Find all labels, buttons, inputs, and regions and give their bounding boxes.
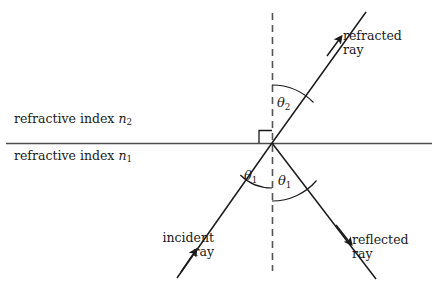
reflected-ray-label-line2: ray bbox=[352, 246, 373, 261]
refracted-ray-arrowhead-icon bbox=[327, 37, 341, 56]
incident-ray-label-line1: incident bbox=[162, 230, 214, 245]
refracted-ray-label: refractedray bbox=[343, 29, 402, 58]
reflected-ray-label-line1: reflected bbox=[352, 232, 409, 247]
upper-medium-text: refractive index bbox=[14, 111, 114, 126]
incident-ray-label-line2: ray bbox=[194, 244, 215, 259]
theta1-reflected-subscript: 1 bbox=[286, 180, 292, 190]
refracted-ray-label-line2: ray bbox=[343, 42, 364, 57]
lower-medium-refractive-index-label: refractive index n1 bbox=[14, 149, 132, 165]
right-angle-marker-icon bbox=[259, 131, 272, 144]
theta2-symbol: θ bbox=[277, 95, 285, 110]
theta1-incident-angle-label: θ1 bbox=[244, 168, 257, 185]
incident-ray-label: incidentray bbox=[136, 231, 214, 260]
refracted-ray-label-line1: refracted bbox=[343, 28, 402, 43]
reflected-ray-label: reflectedray bbox=[352, 233, 409, 262]
theta1-reflected-angle-label: θ1 bbox=[278, 173, 291, 190]
upper-medium-refractive-index-label: refractive index n2 bbox=[14, 112, 132, 128]
theta2-subscript: 2 bbox=[285, 102, 291, 112]
theta2-angle-label: θ2 bbox=[277, 95, 290, 112]
lower-medium-subscript: 1 bbox=[126, 154, 132, 164]
theta1-reflected-symbol: θ bbox=[278, 173, 286, 188]
reflected-ray-arrowhead-icon bbox=[336, 225, 351, 244]
upper-medium-subscript: 2 bbox=[126, 117, 132, 127]
physics-diagram-canvas: refractive index n2 refractive index n1 … bbox=[0, 0, 446, 286]
lower-medium-text: refractive index bbox=[14, 148, 114, 163]
theta1-incident-symbol: θ bbox=[244, 168, 252, 183]
theta1-incident-subscript: 1 bbox=[252, 175, 258, 185]
